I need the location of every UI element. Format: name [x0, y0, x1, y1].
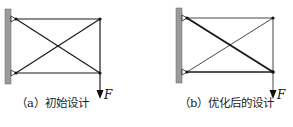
load-label: F	[104, 88, 112, 102]
panel-initial-design: F （a）初始设计	[0, 0, 146, 127]
caption-optimized-design: （b）优化后的设计	[179, 94, 274, 110]
node	[98, 71, 101, 74]
node	[271, 16, 274, 19]
panel-optimized-design: F （b）优化后的设计	[146, 0, 292, 127]
wall-support	[5, 9, 11, 84]
load-arrow-icon	[97, 90, 104, 99]
node	[271, 70, 275, 74]
node	[98, 17, 101, 20]
load-label: F	[277, 88, 285, 102]
wall-support	[176, 8, 182, 83]
caption-initial-design: （a）初始设计	[16, 94, 89, 110]
